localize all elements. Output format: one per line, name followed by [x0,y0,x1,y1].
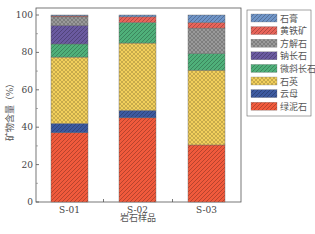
bar-segment [51,44,88,57]
x-tick-label: S-01 [59,205,80,215]
y-tick-label: 20 [22,160,34,170]
legend-swatch-icon [251,102,277,110]
y-tick-label: 80 [22,47,34,57]
y-tick-label: 100 [16,10,33,20]
legend-label: 石英 [280,76,298,87]
bar-segment [119,43,156,110]
stacked-bar-chart: 020406080100 S-01S-02S-03 矿物含量（%） 岩石样品 石… [0,0,315,234]
bar-segment [188,15,225,22]
legend-swatch-icon [251,52,277,60]
legend-swatch-icon [251,39,277,47]
bar-segment [188,145,225,202]
y-axis-title: 矿物含量（%） [4,79,15,142]
legend-label: 钠长石 [280,50,307,61]
x-tick-label: S-03 [196,205,217,215]
x-axis-title: 岩石样品 [120,212,156,223]
legend: 石膏黄铁矿方解石钠长石微斜长石石英云母绿泥石 [247,10,315,116]
legend-label: 方解石 [280,38,307,49]
legend-item: 微斜长石 [251,63,315,74]
y-tick-label: 0 [27,197,33,207]
bar-segment [188,53,225,70]
bar-segment [188,22,225,28]
bar-segment [51,25,88,44]
legend-swatch-icon [251,64,277,72]
legend-label: 绿泥石 [280,101,307,112]
bar-segment [188,70,225,145]
legend-swatch-icon [251,90,277,98]
bar-segment [51,123,88,132]
bar-s-02 [119,15,156,202]
legend-swatch-icon [251,14,277,22]
y-tick-label: 40 [22,122,34,132]
bar-s-03 [188,15,225,202]
legend-label: 云母 [280,89,298,99]
bar-s-01 [51,15,88,202]
bar-segment [119,15,156,17]
legend-swatch-icon [251,27,277,35]
bar-segment [119,22,156,43]
bar-segment [119,110,156,117]
y-axis: 020406080100 [16,10,39,207]
legend-item: 石膏 [251,13,298,24]
legend-label: 石膏 [280,13,298,24]
bar-segment [51,133,88,202]
bar-segment [51,15,88,16]
bars [51,15,225,202]
legend-label: 微斜长石 [280,63,315,74]
bar-segment [119,17,156,23]
legend-label: 黄铁矿 [280,25,307,36]
bar-segment [51,17,88,25]
legend-item: 石英 [251,76,298,87]
y-tick-label: 60 [22,85,34,95]
bar-segment [51,57,88,123]
legend-item: 云母 [251,89,298,99]
legend-swatch-icon [251,77,277,85]
bar-segment [188,28,225,53]
bar-segment [119,118,156,202]
